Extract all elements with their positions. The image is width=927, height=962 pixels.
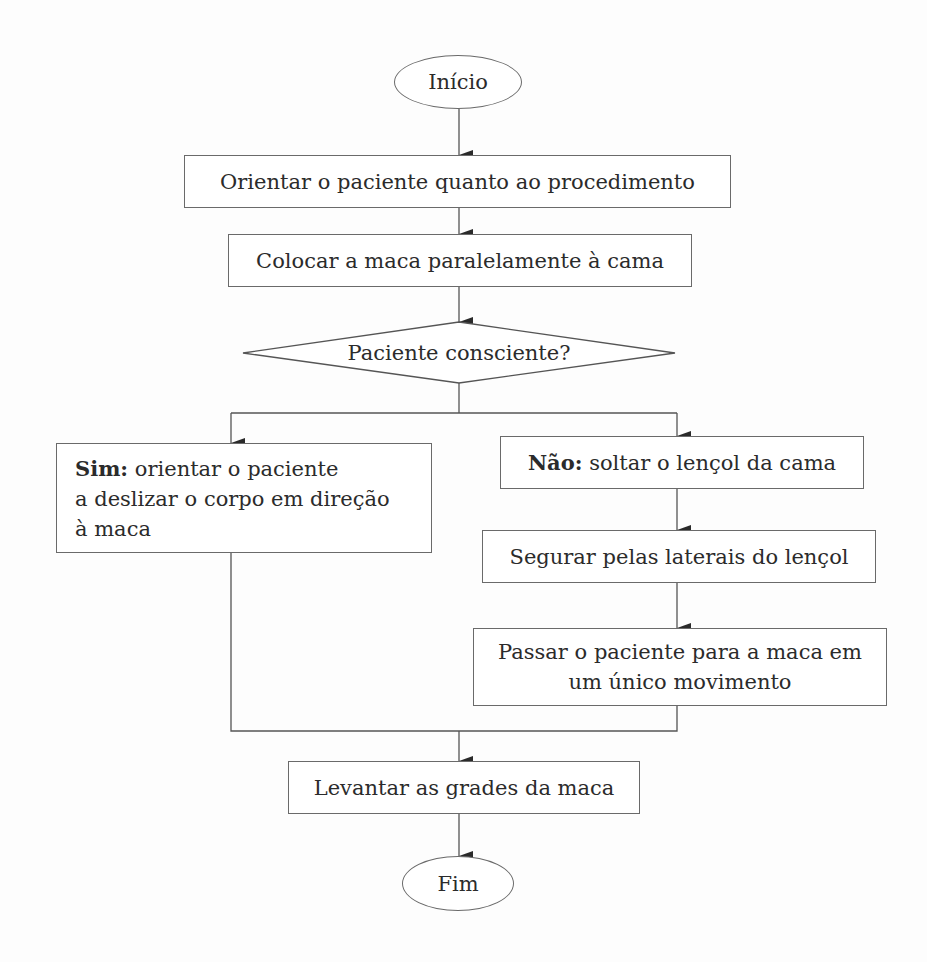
step-passar: Passar o paciente para a maca em um únic… [473, 628, 887, 706]
end-node: Fim [402, 856, 514, 911]
step-colocar-label: Colocar a maca paralelamente à cama [256, 246, 664, 276]
branch-yes-line2: a deslizar o corpo em direção [75, 484, 390, 514]
branch-no-box: Não: soltar o lençol da cama [500, 436, 864, 489]
step-levantar-label: Levantar as grades da maca [314, 773, 615, 803]
step-levantar: Levantar as grades da maca [288, 761, 640, 814]
step-segurar-label: Segurar pelas laterais do lençol [510, 542, 849, 572]
step-passar-line2: um único movimento [568, 667, 791, 697]
branch-yes-line1: orientar o paciente [128, 457, 338, 481]
branch-no-prefix: Não: [528, 450, 583, 475]
branch-yes-box: Sim: orientar o paciente a deslizar o co… [56, 443, 432, 553]
start-node: Início [394, 55, 522, 109]
end-label: Fim [437, 869, 478, 899]
branch-no-text: soltar o lençol da cama [582, 451, 836, 475]
step-orientar-label: Orientar o paciente quanto ao procedimen… [220, 167, 695, 197]
step-passar-line1: Passar o paciente para a maca em [498, 637, 862, 667]
step-orientar: Orientar o paciente quanto ao procedimen… [184, 155, 731, 208]
start-label: Início [428, 67, 488, 97]
step-colocar: Colocar a maca paralelamente à cama [228, 234, 692, 287]
branch-yes-prefix: Sim: [75, 456, 128, 481]
branch-yes-line3: à maca [75, 514, 390, 544]
decision-label: Paciente consciente? [348, 341, 571, 365]
branch-yes-text: Sim: orientar o paciente a deslizar o co… [75, 454, 390, 544]
step-segurar: Segurar pelas laterais do lençol [482, 530, 876, 583]
